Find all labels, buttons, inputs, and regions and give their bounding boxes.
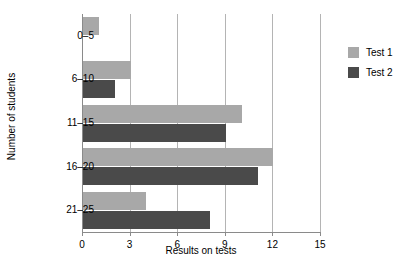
legend-label: Test 2 [366, 67, 393, 78]
bar [83, 211, 210, 229]
bar [83, 167, 258, 185]
chart-legend: Test 1Test 2 [348, 44, 393, 84]
y-axis-title-text: Number of students [7, 72, 18, 159]
y-category-label: 16–20 [66, 161, 94, 172]
tick-mark [130, 232, 131, 236]
y-category-label: 21–25 [66, 204, 94, 215]
y-category-label: 6–10 [72, 73, 94, 84]
bar [83, 148, 273, 166]
gridline [272, 14, 273, 232]
gridline [320, 14, 321, 232]
bar [83, 105, 242, 123]
tick-mark [225, 232, 226, 236]
y-axis-title: Number of students [0, 0, 24, 232]
x-axis-title: Results on tests [82, 245, 320, 256]
y-category-label: 11–15 [67, 117, 94, 128]
x-axis-line [82, 232, 320, 233]
y-category-label: 0–5 [77, 30, 94, 41]
tick-mark [82, 232, 83, 236]
legend-swatch [348, 47, 359, 58]
tick-mark [177, 232, 178, 236]
tick-mark [272, 232, 273, 236]
plot-area: 03691215 [82, 14, 320, 232]
legend-item: Test 1 [348, 44, 393, 61]
legend-label: Test 1 [366, 47, 393, 58]
tick-mark [320, 232, 321, 236]
chart-screenshot: Number of students 03691215 0–56–1011–15… [0, 0, 419, 271]
legend-item: Test 2 [348, 64, 393, 81]
bar [83, 124, 226, 142]
legend-swatch [348, 67, 359, 78]
